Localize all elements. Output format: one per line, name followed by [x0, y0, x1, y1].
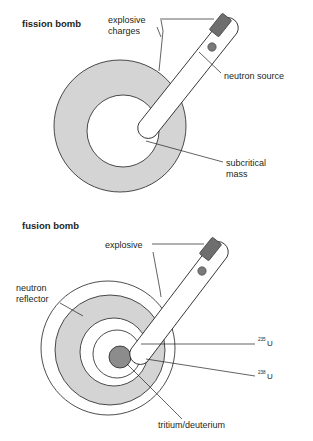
fusion-neutron-source-pellet	[198, 267, 206, 275]
fusion-u238-label: 238 U	[258, 370, 273, 381]
fission-explosive-charges-leader	[159, 20, 163, 71]
nuclear-weapon-diagram: fission bomb explosive charges neutron s…	[0, 0, 313, 441]
fission-subcritical-mass-label-line1: subcritical	[226, 158, 266, 168]
fission-bomb-title: fission bomb	[22, 18, 81, 29]
fusion-explosive-label: explosive	[105, 240, 143, 250]
fusion-tritium-deuterium-label: tritium/deuterium	[158, 420, 225, 430]
fission-bomb-panel: fission bomb explosive charges neutron s…	[22, 13, 284, 192]
fusion-neutron-reflector-label-line1: neutron	[16, 283, 47, 293]
fusion-bomb-title: fusion bomb	[22, 220, 79, 231]
fusion-bomb-panel: fusion bomb explosive neutron reflector …	[16, 220, 273, 430]
fusion-u238-superscript: 238	[258, 370, 266, 375]
fission-explosive-charges-leader-stub	[157, 27, 161, 37]
fission-subcritical-mass-label-line2: mass	[226, 169, 248, 179]
fusion-u235-superscript: 235	[258, 337, 266, 342]
fission-explosive-charges-label-line2: charges	[108, 26, 141, 36]
fusion-u235-label: 235 U	[258, 337, 273, 348]
fusion-neutron-reflector-label-line2: reflector	[16, 294, 49, 304]
fission-neutron-source-pellet	[208, 43, 216, 51]
fusion-explosive-leader	[153, 252, 161, 297]
fission-neutron-source-label: neutron source	[224, 71, 284, 81]
fusion-u238-symbol: U	[267, 372, 273, 381]
fusion-u235-symbol: U	[267, 339, 273, 348]
fission-explosive-charges-label-line1: explosive	[108, 15, 146, 25]
